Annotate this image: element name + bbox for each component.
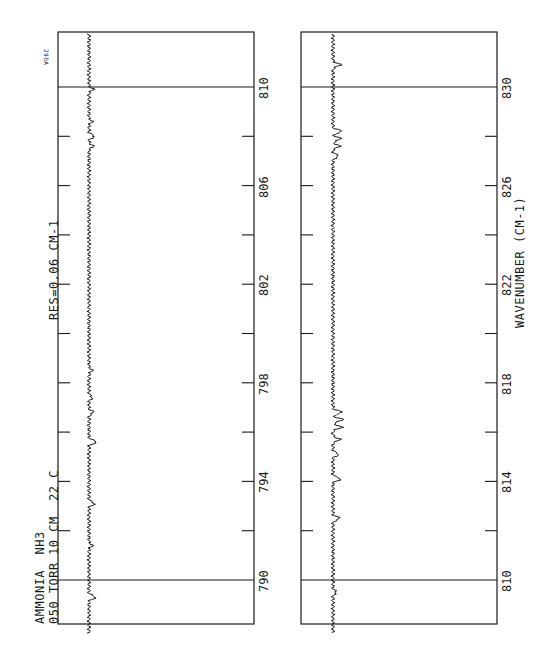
tick-label: 830 <box>501 77 513 99</box>
tick-label: 790 <box>258 570 270 592</box>
plate-id-label: 290A <box>43 49 49 65</box>
tick-label: 798 <box>258 373 270 395</box>
resolution-label: RES=0.06 CM-1 <box>48 220 60 320</box>
tick-label: 826 <box>501 176 513 198</box>
spectrum-plot <box>0 0 554 669</box>
tick-label: 806 <box>258 176 270 198</box>
conditions-label-path-temp: 10 CM 22 C <box>48 470 60 555</box>
spectrum-trace <box>87 34 96 633</box>
spectrum-panel-2 <box>301 32 497 633</box>
tick-label: 818 <box>501 373 513 395</box>
sample-label: AMMONIA NH3 <box>34 531 46 624</box>
spectrum-panel-1 <box>58 32 254 633</box>
tick-label: 814 <box>501 472 513 494</box>
tick-label: 794 <box>258 472 270 494</box>
tick-label: 802 <box>258 275 270 297</box>
tick-label: 810 <box>258 77 270 99</box>
tick-label: 810 <box>501 570 513 592</box>
spectrum-trace <box>331 34 344 633</box>
conditions-label-pressure: 050 TORR <box>48 562 60 624</box>
tick-label: 822 <box>501 275 513 297</box>
x-axis-label: WAVENUMBER (CM-1) <box>514 197 526 328</box>
